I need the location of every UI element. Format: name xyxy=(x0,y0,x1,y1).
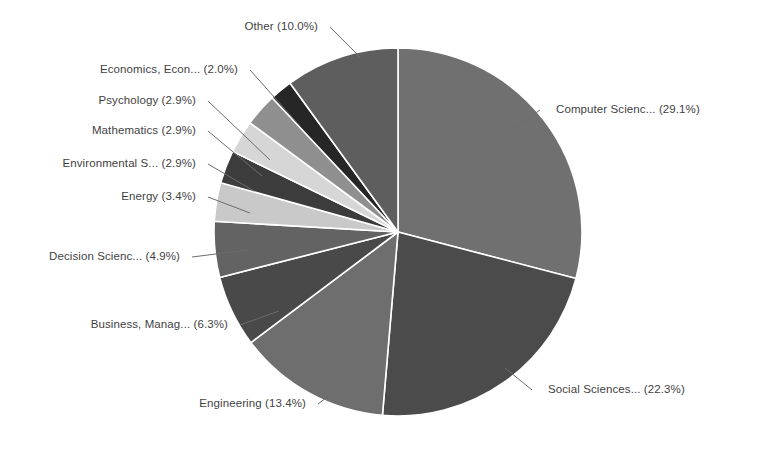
slice-label: Economics, Econ... (2.0%) xyxy=(100,63,238,75)
slice-label: Psychology (2.9%) xyxy=(98,94,196,106)
slice-label: Mathematics (2.9%) xyxy=(92,124,196,136)
slice-label: Business, Manag... (6.3%) xyxy=(91,318,228,330)
slice-label: Other (10.0%) xyxy=(244,20,318,32)
slice-label: Energy (3.4%) xyxy=(121,190,196,202)
pie-slices-group xyxy=(214,48,582,416)
pie-chart-figure: Computer Scienc... (29.1%)Social Science… xyxy=(0,0,775,454)
slice-label: Social Sciences... (22.3%) xyxy=(548,383,685,395)
pie-chart-svg: Computer Scienc... (29.1%)Social Science… xyxy=(0,0,775,454)
slice-label: Environmental S... (2.9%) xyxy=(62,157,196,169)
slice-label: Decision Scienc... (4.9%) xyxy=(49,250,180,262)
slice-label: Computer Scienc... (29.1%) xyxy=(556,103,700,115)
slice-label: Engineering (13.4%) xyxy=(199,397,306,409)
